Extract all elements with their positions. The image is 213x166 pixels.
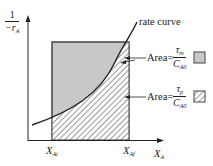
legend-swatch-hatched [194, 91, 205, 102]
diagram-canvas [0, 0, 213, 166]
tick-label-xai: XAi [46, 146, 58, 157]
rate-curve-label: rate curve [139, 17, 181, 28]
y-axis-arrow-icon [26, 15, 31, 22]
legend-swatch-grey [194, 52, 205, 63]
legend-mixed-prefix: Area= [147, 53, 173, 64]
y-axis-label: 1 −rA [5, 10, 19, 34]
legend-plug-fraction: τp CA0 [173, 84, 186, 109]
tick-label-xaf: XAf [123, 146, 135, 157]
legend-plug-prefix: Area= [147, 92, 173, 103]
legend-mixed-fraction: τm CA0 [173, 45, 186, 70]
x-axis-arrow-icon [157, 138, 164, 143]
x-axis-label: XA [154, 149, 164, 160]
